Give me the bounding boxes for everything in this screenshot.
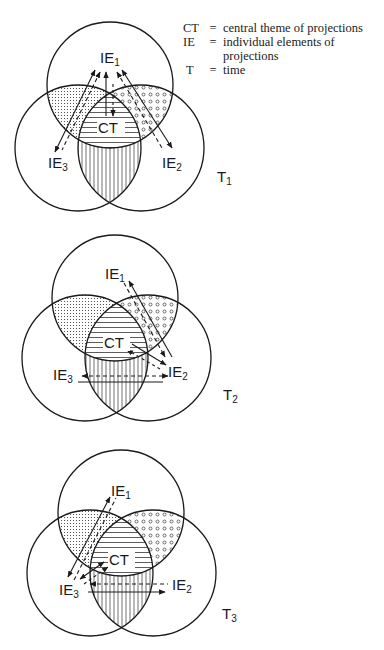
label-t3: T3 bbox=[222, 605, 237, 624]
label-t2: T2 bbox=[223, 386, 238, 405]
label-ie2: IE2 bbox=[162, 154, 182, 173]
label-ie2: IE2 bbox=[168, 363, 188, 382]
label-ct: CT bbox=[98, 119, 118, 136]
label-ie1: IE1 bbox=[111, 482, 131, 501]
label-ie3: IE3 bbox=[59, 581, 79, 600]
label-ct: CT bbox=[109, 551, 129, 568]
label-ie2: IE2 bbox=[172, 576, 192, 595]
label-ie3: IE3 bbox=[48, 154, 68, 173]
label-t1: T1 bbox=[217, 168, 232, 187]
label-ie3: IE3 bbox=[53, 366, 73, 385]
label-ie1: IE1 bbox=[105, 265, 125, 284]
label-ct: CT bbox=[104, 334, 124, 351]
venn-diagrams: CT IE1 IE3 IE2 T1 CT IE1 IE3 IE2 T2 bbox=[0, 0, 384, 650]
